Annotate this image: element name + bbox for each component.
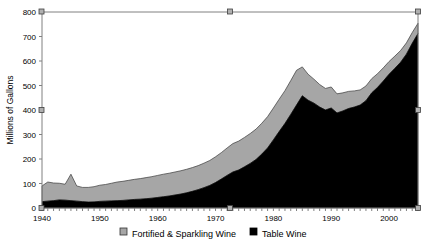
y-tick-label: 100 [23,180,37,189]
legend-label-table-wine[interactable]: Table Wine [262,229,307,239]
x-tick-label: 1940 [33,214,51,223]
selection-handle-top-right[interactable] [416,9,421,14]
x-tick-label: 2000 [380,214,398,223]
y-tick-label: 200 [23,155,37,164]
selection-handle-bottom-left[interactable] [39,206,44,211]
y-tick-label: 500 [23,82,37,91]
selection-handle-bottom-center[interactable] [228,206,233,211]
y-tick-label: 600 [23,57,37,66]
y-tick-label: 800 [23,8,37,17]
selection-handle-bottom-right[interactable] [416,206,421,211]
x-tick-label: 1950 [91,214,109,223]
legend-label-fortified-sparkling-wine[interactable]: Fortified & Sparkling Wine [132,229,236,239]
x-tick-label: 1990 [322,214,340,223]
selection-handle-middle-right[interactable] [416,108,421,113]
chart-legend[interactable]: Fortified & Sparkling Wine Table Wine [120,228,307,239]
x-tick-label: 1970 [207,214,225,223]
y-tick-label: 300 [23,131,37,140]
x-tick-label: 1980 [264,214,282,223]
selection-handle-top-left[interactable] [39,9,44,14]
y-tick-label: 700 [23,33,37,42]
y-axis-tick-labels[interactable]: 0100200300400500600700800 [23,8,37,213]
legend-marker-table-wine [250,228,257,235]
selection-handle-top-center[interactable] [228,9,233,14]
selection-handle-middle-left[interactable] [39,108,44,113]
legend-marker-fortified-sparkling-wine [120,228,127,235]
x-tick-label: 1960 [149,214,167,223]
y-tick-label: 0 [32,204,37,213]
y-axis-title[interactable]: Millions of Gallons [5,76,15,145]
wine-consumption-area-chart[interactable]: 0100200300400500600700800 19401950196019… [0,0,430,245]
plot-area [42,12,418,208]
chart-object[interactable]: 0100200300400500600700800 19401950196019… [0,0,430,245]
y-tick-label: 400 [23,106,37,115]
